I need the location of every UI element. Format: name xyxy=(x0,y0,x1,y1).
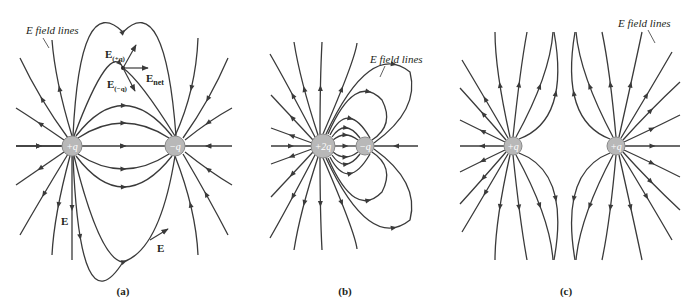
direction-arrow-icon xyxy=(481,95,488,103)
direction-arrow-icon xyxy=(338,199,345,206)
direction-arrow-icon xyxy=(516,204,522,211)
charge-label: +q xyxy=(610,141,622,152)
caption-a: (a) xyxy=(117,285,130,298)
direction-arrow-icon xyxy=(648,125,656,132)
charge-label: −q xyxy=(359,141,371,152)
direction-arrow-icon xyxy=(586,82,593,89)
direction-arrow-icon xyxy=(120,120,126,125)
direction-arrow-icon xyxy=(202,190,209,198)
direction-arrow-icon xyxy=(343,144,349,149)
direction-arrow-icon xyxy=(481,189,488,197)
direction-arrow-icon xyxy=(288,132,295,139)
e-plus-label: E(+q) xyxy=(105,48,126,63)
direction-arrow-icon xyxy=(608,204,614,211)
direction-arrow-icon xyxy=(121,103,127,108)
direction-arrow-icon xyxy=(479,128,487,135)
direction-arrow-icon xyxy=(289,91,296,99)
direction-arrow-icon xyxy=(38,95,45,103)
charge-label: +q xyxy=(507,141,519,152)
field-lines-c xyxy=(460,32,680,260)
panel-b-unequal-charges: +2q −q E field lines (b) xyxy=(270,42,423,298)
direction-arrow-icon xyxy=(121,184,127,189)
direction-arrow-icon xyxy=(516,81,522,88)
charge-label: −q xyxy=(169,141,181,152)
direction-arrow-icon xyxy=(643,193,650,201)
direction-arrow-icon xyxy=(342,132,348,137)
direction-arrow-icon xyxy=(289,193,296,201)
caption-c: (c) xyxy=(560,285,573,298)
direction-arrow-icon xyxy=(288,153,295,160)
direction-arrow-icon xyxy=(479,144,485,149)
direction-arrow-icon xyxy=(608,81,614,88)
direction-arrow-icon xyxy=(342,154,348,159)
label-leader xyxy=(380,66,385,77)
label-leader xyxy=(43,38,49,48)
panel-c-like-charges: +q +q E field lines (c) xyxy=(460,17,680,298)
charge-label: +2q xyxy=(315,141,332,152)
direction-arrow-icon xyxy=(536,83,543,90)
e-label-bottom: E xyxy=(157,242,164,254)
charge-label: +q xyxy=(66,141,78,152)
direction-arrow-icon xyxy=(643,91,650,99)
caption-b: (b) xyxy=(338,285,352,298)
field-lines-label-b: E field lines xyxy=(369,53,423,65)
direction-arrow-icon xyxy=(318,85,323,91)
field-lines-b xyxy=(270,42,418,250)
direction-arrow-icon xyxy=(40,190,47,198)
e-minus-label: E(−q) xyxy=(107,78,128,93)
direction-arrow-icon xyxy=(338,85,345,92)
label-leader xyxy=(648,30,655,43)
direction-arrow-icon xyxy=(36,144,42,149)
direction-arrow-icon xyxy=(479,157,487,164)
direction-arrow-icon xyxy=(650,144,656,149)
direction-arrow-icon xyxy=(120,166,126,171)
direction-arrow-icon xyxy=(347,170,354,176)
direction-arrow-icon xyxy=(318,201,323,207)
direction-arrow-icon xyxy=(536,202,543,209)
e-net-label: Enet xyxy=(146,72,164,87)
field-lines-figure: +q −q E field lines E(+q) E(−q) Enet E E… xyxy=(0,0,696,305)
direction-arrow-icon xyxy=(347,115,354,121)
direction-arrow-icon xyxy=(70,205,75,211)
direction-arrow-icon xyxy=(204,95,211,103)
e-plus-vector xyxy=(123,45,136,68)
direction-arrow-icon xyxy=(288,144,294,149)
direction-arrow-icon xyxy=(648,160,656,167)
direction-arrow-icon xyxy=(393,144,399,149)
field-lines-label-a: E field lines xyxy=(25,24,79,36)
e-label-left: E xyxy=(61,215,68,227)
panel-a-dipole: +q −q E field lines E(+q) E(−q) Enet E E… xyxy=(16,23,232,298)
direction-arrow-icon xyxy=(121,144,127,149)
direction-arrow-icon xyxy=(36,120,44,127)
direction-arrow-icon xyxy=(586,202,593,209)
field-lines-label-c: E field lines xyxy=(617,17,671,29)
charges-c: +q +q xyxy=(504,137,625,155)
direction-arrow-icon xyxy=(206,144,212,149)
e-tangent-vector xyxy=(150,229,168,240)
